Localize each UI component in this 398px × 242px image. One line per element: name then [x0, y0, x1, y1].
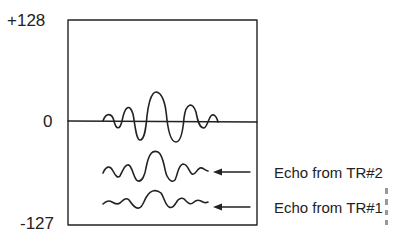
- edge-artifact-mark: [385, 199, 388, 205]
- edge-artifact-mark: [385, 188, 388, 194]
- edge-artifact-mark: [385, 210, 388, 215]
- echo-tr2-waveform: [103, 151, 208, 181]
- echo-tr1-waveform: [103, 191, 208, 209]
- received-waveform: [103, 92, 218, 142]
- arrowhead-tr2-icon: [213, 169, 222, 176]
- echo-tr1-label: Echo from TR#1: [274, 200, 383, 215]
- zero-line: [68, 121, 257, 122]
- arrowhead-tr1-icon: [213, 204, 222, 211]
- edge-artifact-mark: [385, 220, 388, 225]
- echo-tr2-label: Echo from TR#2: [274, 165, 383, 180]
